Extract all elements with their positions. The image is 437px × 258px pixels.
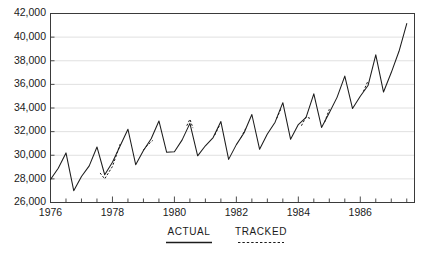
legend-label-tracked: TRACKED: [235, 226, 287, 237]
series-line-tracked: [100, 81, 368, 179]
y-tick-label: 32,000: [14, 124, 46, 136]
y-tick-label: 36,000: [14, 77, 46, 89]
x-axis-labels: 197619781980198219841986: [39, 206, 372, 218]
y-tick-label: 42,000: [14, 6, 46, 18]
x-tick-label: 1980: [163, 206, 187, 218]
x-tick-label: 1978: [101, 206, 125, 218]
chart-legend: ACTUAL TRACKED: [166, 226, 287, 243]
x-tick-label: 1986: [349, 206, 373, 218]
y-tick-label: 38,000: [14, 54, 46, 66]
line-chart: 26,00028,00030,00032,00034,00036,00038,0…: [0, 0, 437, 258]
y-tick-label: 30,000: [14, 148, 46, 160]
y-axis-labels: 26,00028,00030,00032,00034,00036,00038,0…: [14, 6, 46, 207]
y-tick-label: 40,000: [14, 30, 46, 42]
x-axis-ticks: [51, 197, 407, 203]
series-line-actual: [51, 24, 407, 191]
chart-container: 26,00028,00030,00032,00034,00036,00038,0…: [0, 0, 437, 258]
legend-label-actual: ACTUAL: [167, 226, 210, 237]
x-tick-label: 1982: [225, 206, 249, 218]
y-tick-label: 28,000: [14, 172, 46, 184]
x-tick-label: 1984: [287, 206, 311, 218]
x-tick-label: 1976: [39, 206, 63, 218]
y-tick-label: 34,000: [14, 101, 46, 113]
gridlines: [51, 37, 415, 179]
